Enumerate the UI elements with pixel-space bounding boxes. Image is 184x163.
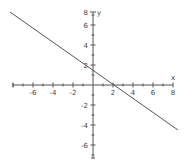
x-tick-label: 6 — [151, 89, 156, 97]
y-tick-label: -4 — [81, 122, 89, 130]
y-tick-label: 8 — [84, 9, 88, 17]
tick-labels: -6-4-224688642-2-4-6 — [30, 9, 176, 150]
chart: -6-4-224688642-2-4-6 x y — [0, 0, 184, 163]
y-axis-label: y — [97, 9, 101, 17]
x-tick-label: -4 — [50, 89, 58, 97]
series-line — [10, 12, 178, 130]
series-group — [10, 12, 178, 130]
x-axis-label: x — [171, 74, 175, 82]
x-tick-label: 8 — [171, 89, 175, 97]
y-tick-label: 4 — [84, 42, 89, 50]
y-tick-label: 6 — [84, 22, 89, 30]
y-tick-label: -2 — [81, 102, 88, 110]
x-tick-label: -2 — [70, 89, 77, 97]
y-tick-label: -6 — [81, 142, 89, 150]
x-tick-label: -6 — [30, 89, 38, 97]
x-tick-label: 4 — [131, 89, 136, 97]
axes — [13, 12, 173, 158]
x-tick-label: 2 — [111, 89, 115, 97]
